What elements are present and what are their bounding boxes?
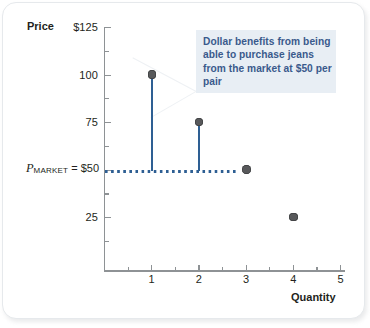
x-tick-2 [198,265,199,271]
market-price-label: PMARKET = $50 [26,161,99,176]
y-tick-62-5 [105,146,109,147]
x-axis-title: Quantity [291,291,336,303]
x-tick-4 [293,265,294,271]
figure-container: $125 100 75 25 1 2 3 4 5 Price Quantity … [0,0,370,328]
chart-plot-area: $125 100 75 25 1 2 3 4 5 Price Quantity … [0,0,370,328]
y-axis-title: Price [27,20,54,32]
y-tick-87-5 [105,98,109,99]
y-tick-37-5 [105,193,109,194]
market-price-value: = $50 [68,162,99,174]
x-tick-label-3: 3 [236,273,256,285]
x-tick-label-5: 5 [331,273,351,285]
stem-q2 [198,122,201,171]
y-tick-100 [105,75,111,76]
data-point-q4-p25 [289,213,298,222]
x-tick-label-1: 1 [142,273,162,285]
data-point-q2-p75 [195,118,204,127]
x-axis-line [104,270,345,271]
x-tick-0-5 [128,267,129,271]
y-tick-label-25: 25 [38,211,98,223]
y-tick-75 [105,122,111,123]
annotation-leader-line-2 [150,91,196,118]
y-axis-line [104,27,105,271]
data-point-q3-p50 [242,165,251,174]
y-tick-125 [105,27,111,28]
y-tick-label-100: 100 [38,69,98,81]
data-point-q1-p100 [148,70,157,79]
x-tick-3 [246,265,247,271]
annotation-leader-line-1 [132,57,196,92]
x-tick-label-4: 4 [283,273,303,285]
market-price-subscript: MARKET [34,166,69,175]
stem-q1 [151,75,154,172]
market-price-reference-line [105,170,239,173]
y-tick-25 [105,217,111,218]
annotation-callout-text: Dollar benefits from being able to purch… [203,35,333,89]
y-tick-label-75: 75 [38,116,98,128]
y-tick-12-5 [105,241,109,242]
x-tick-2-5 [222,267,223,271]
y-tick-112-5 [105,51,109,52]
x-tick-4-5 [316,267,317,271]
market-price-variable: P [26,161,34,175]
x-tick-3-5 [269,267,270,271]
x-tick-label-2: 2 [189,273,209,285]
x-tick-5 [340,265,341,271]
x-tick-1 [151,265,152,271]
x-tick-1-5 [175,267,176,271]
